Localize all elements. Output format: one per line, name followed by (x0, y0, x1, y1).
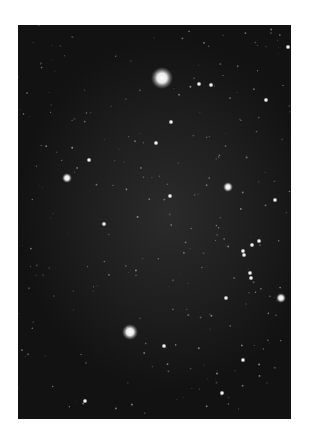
background-star (238, 408, 239, 409)
background-star (210, 315, 212, 317)
background-star (206, 184, 208, 186)
background-star (50, 217, 51, 218)
background-star (277, 40, 278, 41)
background-star (270, 32, 272, 34)
background-star (242, 191, 244, 193)
background-star (190, 368, 192, 370)
background-star (27, 353, 29, 355)
background-star (207, 378, 208, 379)
background-star (250, 237, 251, 238)
background-star (237, 65, 239, 67)
background-star (163, 199, 165, 201)
background-star (134, 140, 136, 142)
background-star (188, 30, 190, 32)
background-star (108, 234, 110, 236)
background-star (125, 265, 127, 267)
background-star (265, 46, 266, 47)
background-star (69, 406, 70, 407)
background-star (56, 152, 57, 153)
background-star (282, 85, 283, 86)
background-star (181, 37, 183, 39)
background-star (239, 118, 241, 120)
background-star (80, 354, 81, 355)
background-star (30, 248, 32, 250)
background-star (255, 292, 256, 293)
background-star (110, 106, 112, 108)
background-star (188, 283, 189, 284)
background-star (278, 240, 280, 242)
background-star (92, 291, 93, 292)
background-star (203, 42, 205, 44)
background-star (186, 309, 187, 310)
background-star (192, 135, 194, 137)
background-star (32, 199, 33, 200)
background-star (53, 295, 55, 297)
background-star (31, 327, 33, 329)
background-star (124, 161, 125, 162)
background-star (289, 191, 291, 193)
background-star (142, 258, 143, 259)
star-right-upper (272, 197, 277, 202)
star-upper-right-b (208, 82, 213, 87)
background-star (135, 269, 137, 271)
background-star (191, 228, 192, 229)
background-star (255, 42, 257, 44)
background-star (61, 160, 63, 162)
background-star (73, 309, 74, 310)
background-star (258, 117, 259, 118)
background-star (18, 76, 19, 77)
background-star (45, 356, 46, 357)
background-star (50, 112, 51, 113)
background-star (198, 347, 200, 349)
background-star (84, 90, 85, 91)
background-star (219, 154, 221, 156)
background-star (20, 110, 21, 111)
background-star (258, 363, 260, 365)
background-star (278, 47, 279, 48)
background-star (76, 167, 78, 169)
background-star (207, 266, 208, 267)
background-star (203, 252, 205, 254)
background-star (229, 97, 231, 99)
background-star (52, 45, 53, 46)
background-star (191, 388, 192, 389)
background-star (26, 92, 28, 94)
background-star (257, 45, 258, 46)
star-lower-mid (161, 343, 166, 348)
background-star (104, 139, 105, 140)
background-star (40, 62, 41, 63)
star-bottom-left (82, 398, 87, 403)
background-star (18, 387, 19, 388)
background-star (257, 70, 258, 71)
background-star (128, 136, 129, 137)
background-star (274, 180, 276, 182)
background-star (206, 405, 208, 407)
background-star (187, 314, 189, 316)
bright-star-bottom (122, 324, 138, 340)
background-star (199, 112, 200, 113)
background-star (248, 292, 249, 293)
background-star (246, 155, 247, 156)
background-star (84, 121, 86, 123)
background-star (167, 370, 169, 372)
background-star (268, 313, 270, 315)
background-star (32, 321, 33, 322)
background-star (143, 352, 145, 354)
background-star (175, 344, 177, 346)
background-star (114, 160, 115, 161)
background-star (223, 238, 225, 240)
background-star (125, 98, 127, 100)
background-star (189, 248, 190, 249)
background-star (74, 172, 75, 173)
background-star (172, 279, 174, 281)
background-star (244, 32, 246, 34)
background-star (245, 303, 247, 305)
star-right-mid (223, 295, 228, 300)
background-star (265, 204, 267, 206)
background-star (139, 133, 140, 134)
background-star (90, 112, 91, 113)
background-star (85, 362, 87, 364)
background-star (225, 245, 226, 246)
background-star (18, 313, 19, 314)
star-cluster-4 (241, 252, 246, 257)
